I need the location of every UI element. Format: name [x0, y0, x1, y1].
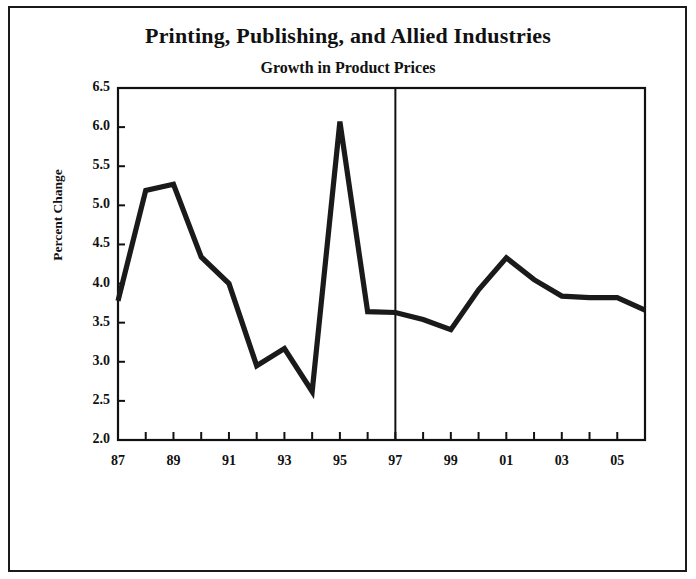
axis-frame [118, 88, 645, 440]
x-tick-label: 95 [320, 453, 360, 469]
y-tick-label: 2.0 [66, 431, 110, 447]
x-tick-label: 89 [153, 453, 193, 469]
y-tick-label: 6.0 [66, 118, 110, 134]
x-tick-label: 87 [98, 453, 138, 469]
x-tick-label: 93 [264, 453, 304, 469]
x-tick-label: 91 [209, 453, 249, 469]
x-tick-label: 97 [375, 453, 415, 469]
x-tick-label: 99 [431, 453, 471, 469]
data-series-line [118, 122, 645, 392]
x-tick-label: 01 [486, 453, 526, 469]
y-tick-label: 3.0 [66, 353, 110, 369]
y-tick-label: 4.5 [66, 235, 110, 251]
chart-figure: Printing, Publishing, and Allied Industr… [0, 0, 696, 579]
x-tick-label: 03 [542, 453, 582, 469]
y-tick-label: 4.0 [66, 275, 110, 291]
y-tick-label: 5.0 [66, 196, 110, 212]
axes-group [118, 88, 645, 440]
y-tick-label: 2.5 [66, 392, 110, 408]
y-tick-label: 6.5 [66, 79, 110, 95]
y-tick-label: 5.5 [66, 157, 110, 173]
tick-marks [118, 88, 645, 440]
x-tick-label: 05 [597, 453, 637, 469]
series-line [118, 122, 645, 392]
y-tick-label: 3.5 [66, 314, 110, 330]
